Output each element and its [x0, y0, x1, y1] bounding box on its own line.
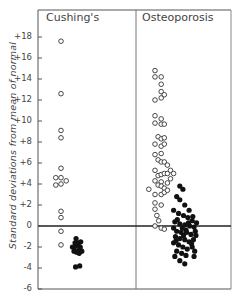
filled-circle-point — [190, 214, 195, 219]
filled-circle-point — [176, 211, 181, 216]
open-circle-point — [153, 168, 158, 173]
open-circle-point — [153, 113, 158, 118]
filled-circle-point — [192, 249, 197, 254]
filled-circle-point — [185, 247, 190, 252]
open-circle-point — [153, 142, 158, 147]
filled-circle-point — [185, 215, 190, 220]
open-circle-point — [59, 128, 64, 133]
open-circle-point — [54, 175, 59, 180]
open-circle-point — [59, 39, 64, 44]
filled-circle-point — [180, 226, 185, 231]
open-circle-point — [59, 91, 64, 96]
filled-circle-point — [183, 253, 188, 258]
open-circle-point — [59, 182, 64, 187]
open-circle-point — [162, 92, 167, 97]
filled-circle-point — [182, 202, 187, 207]
open-circle-point — [153, 207, 158, 212]
filled-circle-point — [194, 220, 199, 225]
open-circle-point — [147, 187, 152, 192]
filled-circle-point — [191, 254, 196, 259]
open-circle-point — [153, 98, 158, 103]
open-circle-point — [156, 218, 161, 223]
open-circle-point — [159, 151, 164, 156]
filled-circle-point — [177, 258, 182, 263]
open-circle-point — [159, 203, 164, 208]
open-circle-point — [159, 82, 164, 87]
open-circle-point — [64, 179, 69, 184]
open-circle-point — [153, 179, 158, 184]
open-circle-point — [159, 75, 164, 80]
open-circle-point — [54, 183, 59, 188]
filled-circle-point — [77, 263, 82, 268]
open-circle-point — [59, 209, 64, 214]
open-circle-point — [159, 117, 164, 122]
open-circle-point — [162, 142, 167, 147]
open-circle-point — [155, 213, 160, 218]
filled-circle-point — [172, 254, 177, 259]
open-circle-point — [59, 243, 64, 248]
filled-circle-point — [74, 250, 79, 255]
open-circle-point — [153, 201, 158, 206]
filled-circle-point — [182, 261, 187, 266]
open-circle-point — [153, 152, 158, 157]
filled-circle-point — [174, 229, 179, 234]
filled-circle-point — [193, 233, 198, 238]
open-circle-point — [59, 175, 64, 180]
filled-circle-point — [180, 187, 185, 192]
filled-circle-point — [187, 208, 192, 213]
filled-circle-point — [72, 244, 77, 249]
open-circle-point — [162, 227, 167, 232]
open-circle-point — [153, 192, 158, 197]
filled-circle-point — [189, 241, 194, 246]
filled-circle-point — [78, 239, 83, 244]
filled-circle-point — [184, 230, 189, 235]
filled-circle-point — [174, 249, 179, 254]
open-circle-point — [165, 163, 170, 168]
open-circle-point — [153, 75, 158, 80]
open-circle-point — [59, 166, 64, 171]
open-circle-point — [162, 136, 167, 141]
filled-circle-point — [186, 220, 191, 225]
filled-circle-point — [177, 197, 182, 202]
open-circle-point — [165, 181, 170, 186]
open-circle-point — [171, 171, 176, 176]
filled-circle-point — [173, 238, 178, 243]
filled-circle-point — [175, 217, 180, 222]
open-circle-point — [59, 215, 64, 220]
open-circle-point — [162, 122, 167, 127]
open-circle-point — [153, 68, 158, 73]
open-circle-point — [153, 224, 158, 229]
open-circle-point — [59, 136, 64, 141]
open-circle-point — [59, 229, 64, 234]
filled-circle-point — [78, 244, 83, 249]
open-circle-point — [165, 188, 170, 193]
open-circle-point — [168, 176, 173, 181]
scatter-plot — [0, 0, 238, 298]
filled-circle-point — [171, 208, 176, 213]
open-circle-point — [153, 121, 158, 126]
